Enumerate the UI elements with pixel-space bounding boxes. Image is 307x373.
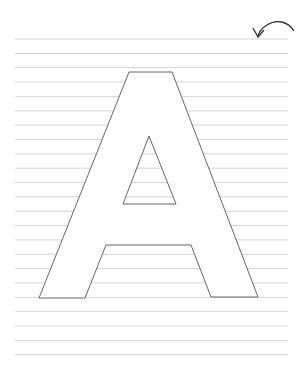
curved-arrow-back-icon[interactable] [253, 22, 294, 37]
letter-a-outline [39, 72, 258, 298]
tracing-worksheet [0, 0, 307, 373]
